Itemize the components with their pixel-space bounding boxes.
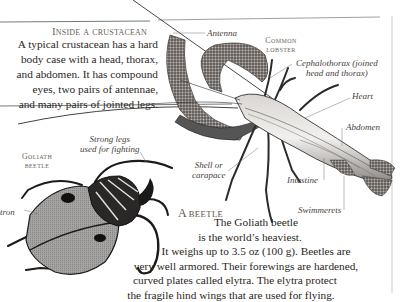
label-abdomen: Abdomen	[346, 122, 380, 132]
label-cephalothorax-line-2: head and thorax)	[296, 68, 378, 78]
label-heart: Heart	[352, 91, 373, 101]
beetle-line-6: the fragile hind wings that are used for…	[72, 288, 390, 302]
crustacean-line-4: eyes, two pairs of antennae,	[0, 82, 158, 97]
beetle-line-5: curved plates called elytra. The elytra …	[80, 273, 390, 288]
beetle-line-2: is the world’s heaviest.	[102, 230, 390, 245]
label-cephalothorax-line-1: Cephalothorax (joined	[296, 58, 378, 68]
label-antenna: Antenna	[207, 28, 237, 38]
label-shell-line-2: carapace	[192, 170, 226, 180]
lobster-title: Common lobster	[256, 36, 306, 54]
beetle-paragraph: The Goliath beetle is the world’s heavie…	[102, 215, 390, 302]
crustacean-line-1: A typical crustacean has a hard	[0, 37, 158, 52]
crustacean-line-3: and abdomen. It has compound	[0, 67, 158, 82]
crustacean-line-5: and many pairs of jointed legs.	[0, 97, 158, 112]
lobster-title-line-2: lobster	[256, 45, 306, 54]
beetle-line-4: very well armored. Their forewings are h…	[102, 259, 390, 274]
label-strong-legs-line-1: Strong legs	[80, 134, 140, 144]
beetle-title: Goliath beetle	[12, 152, 62, 170]
label-intestine: Intestine	[287, 175, 318, 185]
label-cephalothorax: Cephalothorax (joined head and thorax)	[296, 58, 378, 78]
crustacean-line-2: body case with a head, thorax,	[0, 52, 158, 67]
beetle-line-1: The Goliath beetle	[102, 215, 390, 230]
label-strong-legs-line-2: used for fighting	[80, 144, 140, 154]
label-strong-legs: Strong legs used for fighting	[80, 134, 140, 154]
label-shell: Shell or carapace	[192, 160, 226, 180]
crustacean-heading: Inside a crustacean	[52, 25, 147, 37]
label-swimmerets: Swimmerets	[298, 205, 341, 215]
lobster-title-line-1: Common	[256, 36, 306, 45]
beetle-title-line-2: beetle	[12, 161, 62, 170]
label-shell-line-1: Shell or	[192, 160, 226, 170]
crustacean-paragraph: A typical crustacean has a hard body cas…	[0, 37, 158, 112]
label-elytron: Elytron	[0, 207, 15, 217]
beetle-line-3: It weighs up to 3.5 oz (100 g). Beetles …	[102, 244, 390, 259]
beetle-title-line-1: Goliath	[12, 152, 62, 161]
